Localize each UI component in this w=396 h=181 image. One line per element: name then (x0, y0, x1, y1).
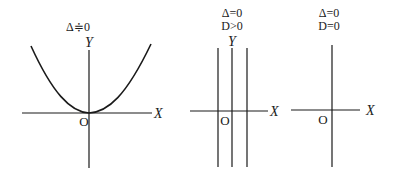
conic-degenerate-cases-figure: Δ≑0 Y X O Δ=0 D>0 Y X O Δ=0 D=0 X O (0, 0, 396, 181)
condition-label: Δ≑0 (66, 20, 90, 34)
parabola-curve (31, 44, 151, 113)
origin-label: O (318, 112, 327, 127)
condition-label-delta: Δ=0 (222, 6, 242, 20)
x-axis-label: X (365, 103, 375, 118)
panel-parallel-lines: Δ=0 D>0 Y X O (190, 6, 279, 167)
y-axis-label: Y (85, 35, 95, 50)
x-axis-label: X (269, 104, 279, 119)
condition-label-d: D>0 (221, 19, 242, 33)
panel-single-line: Δ=0 D=0 X O (291, 6, 375, 167)
condition-label-d: D=0 (318, 19, 339, 33)
condition-label-delta: Δ=0 (319, 6, 339, 20)
origin-label: O (220, 113, 229, 128)
origin-label: O (79, 114, 88, 129)
x-axis-label: X (153, 106, 163, 121)
panel-parabola: Δ≑0 Y X O (22, 20, 163, 168)
y-axis-label: Y (228, 34, 238, 49)
